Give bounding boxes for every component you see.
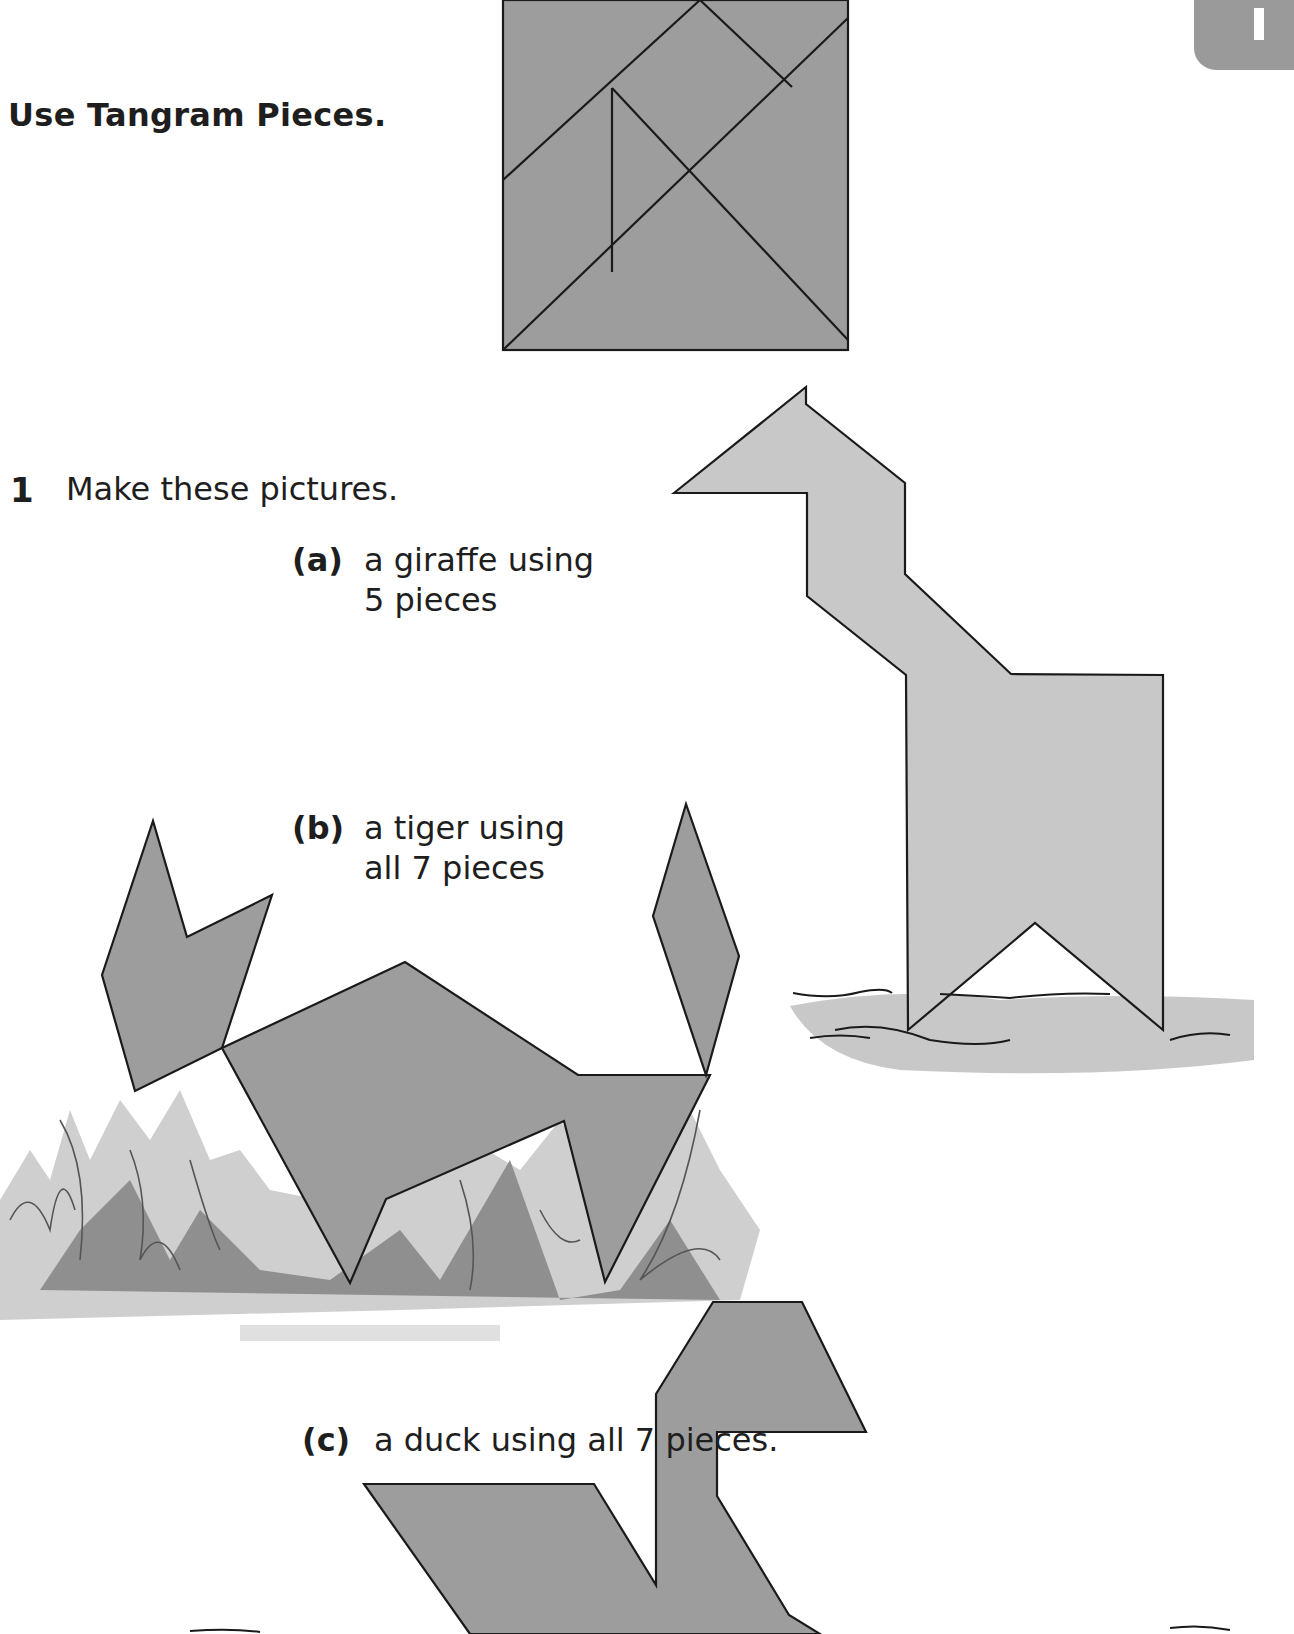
item-b: (b) a tiger using all 7 pieces	[292, 808, 565, 888]
item-c-label: (c)	[302, 1420, 374, 1460]
giraffe-figure	[674, 387, 1254, 1073]
item-b-label: (b)	[292, 808, 364, 848]
item-a-label: (a)	[292, 540, 364, 580]
corner-tab-number	[1254, 8, 1264, 40]
item-a-line1: a giraffe using	[364, 541, 594, 579]
item-c: (c) a duck using all 7 pieces.	[302, 1420, 778, 1460]
page-header: Use Tangram Pieces.	[8, 96, 386, 134]
item-c-line1: a duck using all 7 pieces.	[374, 1421, 778, 1459]
duck-figure	[364, 1302, 866, 1634]
question-number: 1	[10, 470, 34, 510]
tangram-square-figure	[503, 0, 848, 350]
item-b-line2: all 7 pieces	[364, 849, 545, 887]
item-a-line2: 5 pieces	[364, 581, 497, 619]
item-b-line1: a tiger using	[364, 809, 565, 847]
item-a: (a) a giraffe using 5 pieces	[292, 540, 594, 620]
corner-chapter-tab	[1194, 0, 1294, 70]
question-prompt: Make these pictures.	[66, 470, 398, 508]
